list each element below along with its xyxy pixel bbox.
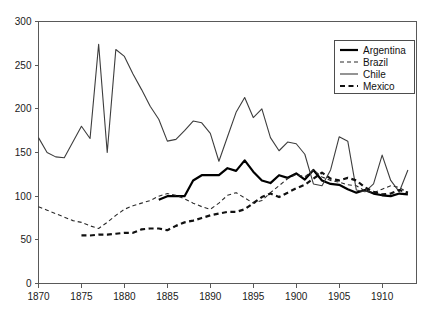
x-tick-label: 1880	[113, 291, 136, 302]
y-tick-label: 50	[20, 234, 32, 245]
x-tick-label: 1870	[27, 291, 50, 302]
x-tick-label: 1910	[371, 291, 394, 302]
x-tick-label: 1905	[328, 291, 351, 302]
x-tick-label: 1900	[285, 291, 308, 302]
chart-container: 050100150200250300 187018751880188518901…	[0, 0, 433, 324]
legend-label-mexico: Mexico	[363, 81, 395, 92]
x-tick-label: 1875	[70, 291, 93, 302]
y-tick-label: 150	[15, 147, 32, 158]
x-axis-ticks: 187018751880188518901895190019051910	[27, 284, 393, 302]
line-chart: 050100150200250300 187018751880188518901…	[0, 0, 433, 324]
y-tick-label: 250	[15, 60, 32, 71]
y-axis-ticks: 050100150200250300	[15, 16, 39, 289]
y-tick-label: 0	[26, 278, 32, 289]
x-tick-label: 1895	[242, 291, 265, 302]
legend-label-brazil: Brazil	[363, 57, 388, 68]
series-line-mexico	[81, 173, 407, 236]
y-tick-label: 200	[15, 103, 32, 114]
legend-label-argentina: Argentina	[363, 45, 406, 56]
y-tick-label: 100	[15, 191, 32, 202]
x-tick-label: 1885	[156, 291, 179, 302]
legend-label-chile: Chile	[363, 69, 386, 80]
x-tick-label: 1890	[199, 291, 222, 302]
y-tick-label: 300	[15, 16, 32, 27]
chart-legend: ArgentinaBrazilChileMexico	[334, 40, 414, 93]
